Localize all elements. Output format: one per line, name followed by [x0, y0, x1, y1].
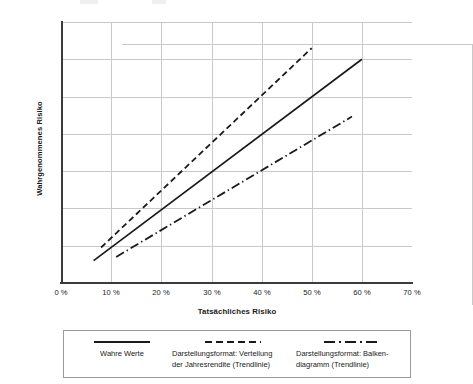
crop-artifact: [80, 0, 200, 4]
x-tick-10: 10 %: [86, 289, 136, 297]
legend-label-line2: diagramm (Trendlinie): [296, 360, 408, 371]
x-tick-40: 40 %: [237, 289, 287, 297]
dash-dot-line-swatch: [296, 337, 408, 347]
y-axis-title: Wahrgenommenes Risiko: [35, 59, 44, 239]
legend-item-balkendiagramm: Darstellungsformat: Balken- diagramm (Tr…: [296, 337, 408, 370]
legend-label-line1: Darstellungsformat: Verteilung: [172, 349, 294, 360]
x-tick-20: 20 %: [136, 289, 186, 297]
x-tick-60: 60 %: [337, 289, 387, 297]
series-lines: [61, 22, 412, 283]
x-tick-0: 0 %: [36, 289, 86, 297]
x-tick-50: 50 %: [287, 289, 337, 297]
chart-legend: Wahre Werte Darstellungsformat: Verteilu…: [63, 330, 411, 378]
legend-label-line2: der Jahresrendite (Trendlinie): [172, 360, 294, 371]
x-tick-30: 30 %: [187, 289, 237, 297]
x-axis-title: Tatsächliches Risiko: [61, 307, 413, 316]
series-line-balkendiagramm: [116, 117, 352, 257]
series-line-verteilung-jahresrendite: [101, 48, 312, 247]
legend-item-wahre-werte: Wahre Werte: [72, 337, 172, 360]
series-line-wahre-werte: [94, 59, 362, 260]
dashed-line-swatch: [172, 337, 294, 347]
legend-label-line1: Wahre Werte: [72, 349, 172, 360]
solid-line-swatch: [72, 337, 172, 347]
legend-label-line1: Darstellungsformat: Balken-: [296, 349, 408, 360]
x-tick-70: 70 %: [387, 289, 437, 297]
legend-item-verteilung-jahresrendite: Darstellungsformat: Verteilung der Jahre…: [172, 337, 294, 370]
